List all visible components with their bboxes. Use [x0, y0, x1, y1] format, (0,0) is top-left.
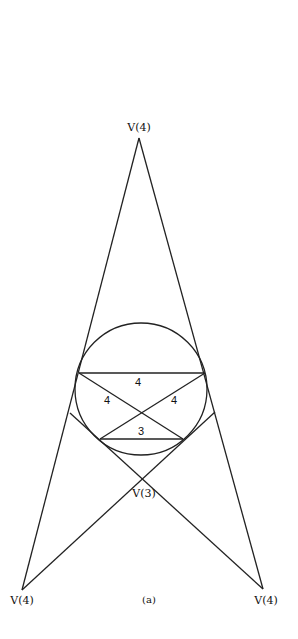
vertex-top-label: V(4): [126, 121, 151, 134]
vertex-bottom-right-label: V(4): [253, 594, 278, 607]
top-chord-label: 4: [135, 376, 141, 388]
vertex-center-label: V(3): [131, 487, 156, 500]
diagonal-left-to-right: [79, 373, 183, 439]
bottom-chord-label: 3: [138, 425, 144, 437]
outer-right-edge: [139, 138, 263, 589]
left-diagonal-label: 4: [104, 394, 110, 406]
vertex-bottom-left-label: V(4): [9, 594, 34, 607]
diagonal-right-to-left: [100, 373, 205, 439]
figure-caption: (a): [142, 594, 156, 605]
right-diagonal-label: 4: [171, 394, 177, 406]
graph-diagram: 4 4 4 3 V(4) V(3) V(4) V(4) (a): [0, 0, 298, 639]
